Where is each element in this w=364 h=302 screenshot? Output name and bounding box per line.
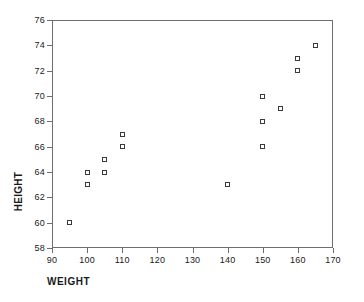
data-point bbox=[120, 144, 125, 149]
y-axis-tick bbox=[47, 45, 52, 46]
x-axis-tick-label: 160 bbox=[290, 255, 306, 265]
x-axis-tick-label: 150 bbox=[255, 255, 271, 265]
y-axis-tick-label: 74 bbox=[35, 40, 45, 50]
y-axis-tick bbox=[47, 121, 52, 122]
data-point bbox=[85, 182, 90, 187]
y-axis-tick bbox=[47, 172, 52, 173]
x-axis-tick bbox=[228, 248, 229, 253]
y-axis-tick bbox=[47, 197, 52, 198]
x-axis-tick bbox=[333, 248, 334, 253]
data-point bbox=[260, 94, 265, 99]
y-axis-tick-label: 58 bbox=[35, 243, 45, 253]
data-point bbox=[278, 106, 283, 111]
y-axis-tick-label: 62 bbox=[35, 192, 45, 202]
data-point bbox=[102, 170, 107, 175]
data-point bbox=[313, 43, 318, 48]
plot-area bbox=[52, 20, 333, 248]
y-axis-tick-label: 66 bbox=[35, 142, 45, 152]
x-axis-tick-label: 130 bbox=[185, 255, 201, 265]
data-point bbox=[67, 220, 72, 225]
y-axis-tick-label: 64 bbox=[35, 167, 45, 177]
y-axis-tick bbox=[47, 223, 52, 224]
data-point bbox=[295, 68, 300, 73]
y-axis-tick-label: 76 bbox=[35, 15, 45, 25]
y-axis-tick-label: 70 bbox=[35, 91, 45, 101]
y-axis-tick bbox=[47, 147, 52, 148]
y-axis-tick-label: 68 bbox=[35, 116, 45, 126]
x-axis-tick bbox=[122, 248, 123, 253]
data-point bbox=[225, 182, 230, 187]
x-axis-tick-label: 120 bbox=[150, 255, 166, 265]
x-axis-tick bbox=[263, 248, 264, 253]
x-axis-tick-label: 100 bbox=[79, 255, 95, 265]
scatter-plot-figure: 58606264666870727476 9010011012013014015… bbox=[0, 0, 364, 302]
data-point bbox=[85, 170, 90, 175]
x-axis-title: WEIGHT bbox=[47, 276, 90, 287]
x-axis-tick bbox=[157, 248, 158, 253]
y-axis-tick bbox=[47, 20, 52, 21]
data-point bbox=[295, 56, 300, 61]
x-axis-tick-label: 90 bbox=[47, 255, 57, 265]
y-axis-tick-label: 60 bbox=[35, 218, 45, 228]
y-axis-tick bbox=[47, 71, 52, 72]
data-point bbox=[102, 157, 107, 162]
x-axis-tick bbox=[298, 248, 299, 253]
x-axis-tick bbox=[52, 248, 53, 253]
y-axis-tick bbox=[47, 96, 52, 97]
y-axis-title: HEIGHT bbox=[13, 162, 24, 222]
x-axis-tick-label: 140 bbox=[220, 255, 236, 265]
x-axis-tick-label: 170 bbox=[325, 255, 341, 265]
data-point bbox=[260, 119, 265, 124]
data-point bbox=[120, 132, 125, 137]
data-point bbox=[260, 144, 265, 149]
x-axis-tick bbox=[193, 248, 194, 253]
x-axis-tick bbox=[87, 248, 88, 253]
x-axis-tick-label: 110 bbox=[115, 255, 130, 265]
y-axis-tick-label: 72 bbox=[35, 66, 45, 76]
